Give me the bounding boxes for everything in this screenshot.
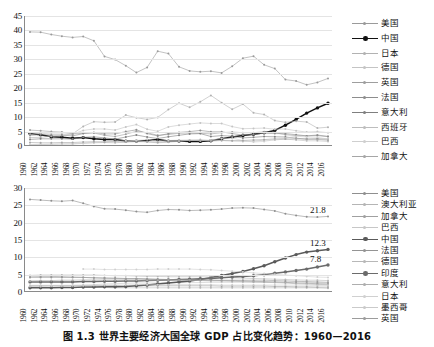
x-tick-label: 2014	[307, 308, 315, 322]
legend-item[interactable]: 巴西	[352, 222, 399, 233]
x-tick-label: 1972	[83, 308, 91, 322]
x-tick-label: 1982	[137, 162, 145, 176]
figure-caption: 图 1.3 世界主要经济大国全球 GDP 占比变化趋势：1960—2016	[0, 330, 434, 343]
x-tick-label: 2000	[232, 162, 240, 176]
x-tick-label: 1990	[179, 308, 187, 322]
gridline	[25, 88, 332, 89]
legend-item[interactable]: 日本	[352, 291, 399, 302]
legend-item[interactable]: 法国	[352, 92, 399, 103]
figure-page: 051015202530354045 196019621964196619681…	[0, 0, 434, 347]
legend-marker-icon	[352, 108, 378, 117]
chart-bottom: 051015202530 196019621964196619681970197…	[0, 180, 434, 325]
x-tick-label: 1984	[147, 308, 155, 322]
x-tick-label: 1980	[126, 162, 134, 176]
x-tick-label: 2008	[275, 308, 283, 322]
x-tick-label: 1982	[137, 308, 145, 322]
x-tick-label: 1996	[211, 308, 219, 322]
x-tick-label: 2012	[296, 308, 304, 322]
x-tick-label: 1978	[115, 308, 123, 322]
x-tick-label: 2004	[254, 308, 262, 322]
y-tick-label: 25	[13, 69, 22, 78]
x-tick-label: 2016	[318, 308, 326, 322]
x-tick-label: 1966	[51, 162, 59, 176]
gridline	[25, 132, 332, 133]
y-tick-label: 35	[13, 40, 22, 49]
legend-item[interactable]: 加拿大	[352, 151, 408, 162]
x-tick-label: 1962	[30, 162, 38, 176]
legend-item[interactable]: 印度	[352, 268, 399, 279]
legend-marker-icon	[352, 78, 378, 87]
x-tick-label: 2014	[307, 162, 315, 176]
legend-label: 美国	[378, 19, 399, 28]
legend-label: 美国	[378, 189, 399, 198]
legend-item[interactable]: 西班牙	[352, 122, 408, 133]
legend-item[interactable]: 意大利	[352, 279, 408, 290]
x-tick-label: 1966	[51, 308, 59, 322]
annotations-bottom: 21.812.37.8	[2, 184, 332, 292]
legend-marker-icon	[352, 303, 378, 312]
gridline	[25, 74, 332, 75]
x-tick-label: 1974	[94, 308, 102, 322]
x-tick-label: 1964	[41, 308, 49, 322]
legend-marker-icon	[352, 93, 378, 102]
x-tick-label: 1994	[200, 162, 208, 176]
legend-marker-icon	[352, 49, 378, 58]
legend-label: 墨西哥	[378, 303, 408, 312]
legend-marker-icon	[352, 200, 378, 209]
y-tick-label: 30	[13, 55, 22, 64]
legend-marker-icon	[352, 257, 378, 266]
legend-label: 日本	[378, 49, 399, 58]
legend-label: 德国	[378, 257, 399, 266]
legend-item[interactable]: 巴西	[352, 136, 399, 147]
y-tick-label: 0	[18, 142, 22, 151]
legend-item[interactable]: 日本	[352, 48, 399, 59]
x-tick-label: 2006	[264, 308, 272, 322]
x-tick-label: 1984	[147, 162, 155, 176]
legend-item[interactable]: 中国	[352, 33, 399, 44]
legend-item[interactable]: 澳大利亚	[352, 199, 417, 210]
y-axis-labels-top: 051015202530354045	[2, 12, 24, 146]
legend-label: 意大利	[378, 108, 408, 117]
legend-marker-icon	[352, 137, 378, 146]
legend-label: 英国	[378, 78, 399, 87]
y-tick-label: 20	[13, 84, 22, 93]
legend-item[interactable]: 英国	[352, 313, 399, 324]
legend-item[interactable]: 英国	[352, 77, 399, 88]
x-tick-label: 1986	[158, 308, 166, 322]
gridline	[25, 59, 332, 60]
legend-item[interactable]: 美国	[352, 18, 399, 29]
x-tick-label: 1988	[169, 162, 177, 176]
x-tick-label: 1968	[62, 162, 70, 176]
legend-item[interactable]: 意大利	[352, 107, 408, 118]
x-tick-label: 1990	[179, 162, 187, 176]
legend-marker-icon	[352, 269, 378, 278]
x-tick-label: 2008	[275, 162, 283, 176]
legend-label: 日本	[378, 292, 399, 301]
x-tick-label: 2006	[264, 162, 272, 176]
y-tick-label: 15	[13, 98, 22, 107]
legend-marker-icon	[352, 292, 378, 301]
legend-item[interactable]: 墨西哥	[352, 302, 408, 313]
legend-marker-icon	[352, 235, 378, 244]
x-tick-label: 1962	[30, 308, 38, 322]
legend-marker-icon	[352, 189, 378, 198]
gridline	[25, 16, 332, 17]
legend-label: 加拿大	[378, 212, 408, 221]
x-tick-label: 1970	[73, 308, 81, 322]
data-annotation: 12.3	[310, 239, 326, 248]
gridline	[25, 117, 332, 118]
y-tick-label: 5	[18, 127, 22, 136]
legend-marker-icon	[352, 34, 378, 43]
x-tick-label: 1992	[190, 162, 198, 176]
x-tick-label: 1968	[62, 308, 70, 322]
legend-item[interactable]: 德国	[352, 256, 399, 267]
legend-item[interactable]: 中国	[352, 234, 399, 245]
legend-item[interactable]: 法国	[352, 245, 399, 256]
legend-marker-icon	[352, 63, 378, 72]
legend-item[interactable]: 美国	[352, 188, 399, 199]
series-canvas-top	[25, 16, 332, 146]
x-tick-label: 1960	[20, 308, 28, 322]
legend-item[interactable]: 加拿大	[352, 211, 408, 222]
x-tick-label: 1980	[126, 308, 134, 322]
legend-item[interactable]: 德国	[352, 62, 399, 73]
